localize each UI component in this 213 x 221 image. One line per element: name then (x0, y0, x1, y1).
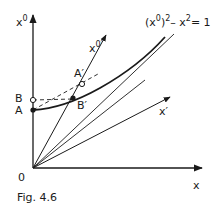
x0prime-sup: 0′ (96, 40, 103, 49)
eq-sup0: 0 (156, 14, 161, 23)
point-B (30, 97, 35, 102)
eq-minus-x: – x (170, 16, 186, 29)
origin-label: 0 (18, 172, 25, 183)
light-cone-line (33, 34, 174, 168)
hyperbola-equation: (x0)2– x2= 1 (145, 17, 211, 28)
diagram-canvas (0, 0, 213, 221)
figure-caption: Fig. 4.6 (17, 192, 57, 203)
x0-sup: 0 (23, 14, 28, 23)
xprime-axis-label: x′ (159, 106, 168, 117)
point-A (30, 107, 35, 112)
x-axis-label: x (193, 180, 200, 191)
x0-axis-label: x0 (16, 17, 28, 28)
point-Bprime-label: B′ (77, 100, 87, 111)
eq-open: (x (145, 16, 156, 29)
eq-sup2a: 2 (165, 14, 170, 23)
x0-base: x (16, 16, 23, 29)
eq-rhs: = 1 (191, 16, 211, 29)
point-A-label: A (15, 105, 23, 116)
point-Aprime (79, 81, 84, 86)
eq-sup2b: 2 (186, 14, 191, 23)
x0prime-axis-label: x0′ (89, 43, 102, 54)
point-Aprime-label: A′ (74, 68, 84, 79)
dashed-line-A-Aprime (33, 74, 98, 110)
x0prime-base: x (89, 42, 96, 55)
point-B-label: B (15, 93, 23, 104)
point-Bprime (70, 95, 75, 100)
